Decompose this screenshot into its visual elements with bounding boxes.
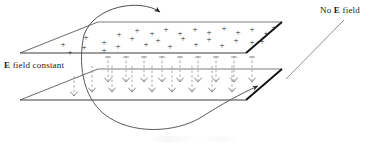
cropped-caption-remnant [150,136,242,142]
charge-plus: + [60,40,65,49]
charge-plus: + [221,24,226,33]
capacitor-field-diagram: + + + + + + + + + + + + + + + + + + + + … [0,0,392,145]
charge-plus: + [249,38,254,47]
charge-plus: + [149,29,154,38]
charge-plus: + [271,23,276,32]
charge-plus: + [81,43,86,52]
charge-plus: + [249,25,254,34]
no-e-field-prefix: No [320,5,334,15]
charge-plus: + [177,29,182,38]
charge-plus: + [115,42,120,51]
no-e-field-label: No E field [320,5,360,15]
charge-plus: + [163,25,168,34]
charge-plus: + [193,40,198,49]
charge-plus: + [129,34,134,43]
charge-plus: + [101,46,106,55]
charge-plus: + [116,30,121,39]
e-field-constant-label: E field constant [4,60,64,70]
charge-plus: + [67,48,72,57]
charge-plus: + [233,36,238,45]
field-free-trajectory-line [286,20,344,79]
e-field-constant-text: field constant [10,60,64,70]
no-e-field-text: field [340,5,360,15]
charge-plus: + [134,26,139,35]
charge-plus: + [259,37,264,46]
charge-plus: + [155,36,160,45]
charge-plus: + [219,41,224,50]
charge-plus: + [83,33,88,42]
charge-plus: + [143,40,148,49]
charge-plus: + [206,28,211,37]
charge-plus: + [167,42,172,51]
bottom-plate [20,69,282,100]
charge-plus: + [192,25,197,34]
charge-plus: + [235,28,240,37]
